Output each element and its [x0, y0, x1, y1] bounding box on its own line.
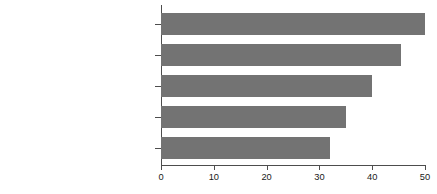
x-axis-tick [161, 165, 162, 170]
x-axis-tick-label: 20 [261, 172, 271, 182]
x-axis-tick-label: 40 [367, 172, 377, 182]
x-axis-tick-label: 50 [420, 172, 430, 182]
x-axis-line [161, 165, 426, 166]
y-axis-label-slot: P+B+good implementation (I) [0, 112, 437, 122]
y-axis-label-slot: P+B+I+over 6 months’ duration [0, 143, 437, 153]
x-axis-tick [319, 165, 320, 170]
x-axis-tick-label: 0 [158, 172, 163, 182]
x-axis-tick-label: 10 [209, 172, 219, 182]
x-axis-tick [267, 165, 268, 170]
x-axis-tick-label: 30 [314, 172, 324, 182]
x-axis-tick [372, 165, 373, 170]
y-axis-label-slot: P+minimal program [0, 50, 437, 60]
x-axis-tick [214, 165, 215, 170]
bar-chart: Routine probation (P) P+minimal program … [0, 0, 437, 194]
y-axis-label-slot: Routine probation (P) [0, 19, 437, 29]
x-axis-tick [425, 165, 426, 170]
y-axis-label-slot: P+best intervention type (B) [0, 81, 437, 91]
